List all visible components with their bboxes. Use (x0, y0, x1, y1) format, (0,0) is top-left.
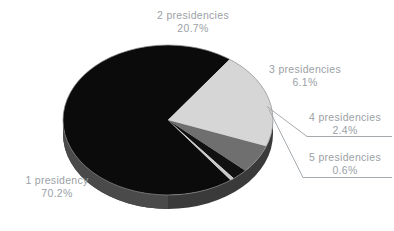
slice-label-5-presidencies: 5 presidencies 0.6% (296, 151, 394, 176)
slice-label-1-name: 1 presidency (4, 174, 110, 187)
slice-label-5-name: 5 presidencies (296, 151, 394, 164)
pie-slices (63, 45, 273, 195)
slice-label-4-presidencies: 4 presidencies 2.4% (296, 111, 394, 136)
slice-label-2-name: 2 presidencies (132, 9, 254, 22)
slice-label-5-value: 0.6% (296, 164, 394, 177)
slice-label-4-name: 4 presidencies (296, 111, 394, 124)
slice-label-2-value: 20.7% (132, 22, 254, 35)
slice-label-3-value: 6.1% (246, 76, 364, 89)
slice-label-3-name: 3 presidencies (246, 63, 364, 76)
slice-label-1-value: 70.2% (4, 187, 110, 200)
slice-label-1-presidency: 1 presidency 70.2% (4, 174, 110, 199)
slice-label-2-presidencies: 2 presidencies 20.7% (132, 9, 254, 34)
slice-label-3-presidencies: 3 presidencies 6.1% (246, 63, 364, 88)
pie-chart: 2 presidencies 20.7% 3 presidencies 6.1%… (0, 0, 394, 231)
slice-label-4-value: 2.4% (296, 124, 394, 137)
